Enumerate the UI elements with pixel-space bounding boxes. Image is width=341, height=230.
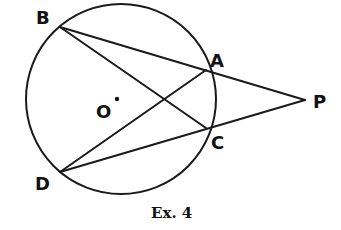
label-b: B (36, 7, 50, 28)
center-dot (115, 97, 119, 101)
secant-b-p (60, 27, 305, 100)
figure-caption: Ex. 4 (151, 204, 192, 222)
label-o: O (96, 101, 111, 122)
chord-b-c (60, 27, 206, 128)
circle (26, 4, 216, 194)
label-d: D (35, 173, 50, 194)
label-a: A (210, 50, 224, 71)
label-c: C (211, 132, 224, 153)
label-p: P (313, 91, 326, 112)
geometry-figure: B A P C D O Ex. 4 (0, 0, 341, 230)
chord-d-a (60, 70, 206, 172)
